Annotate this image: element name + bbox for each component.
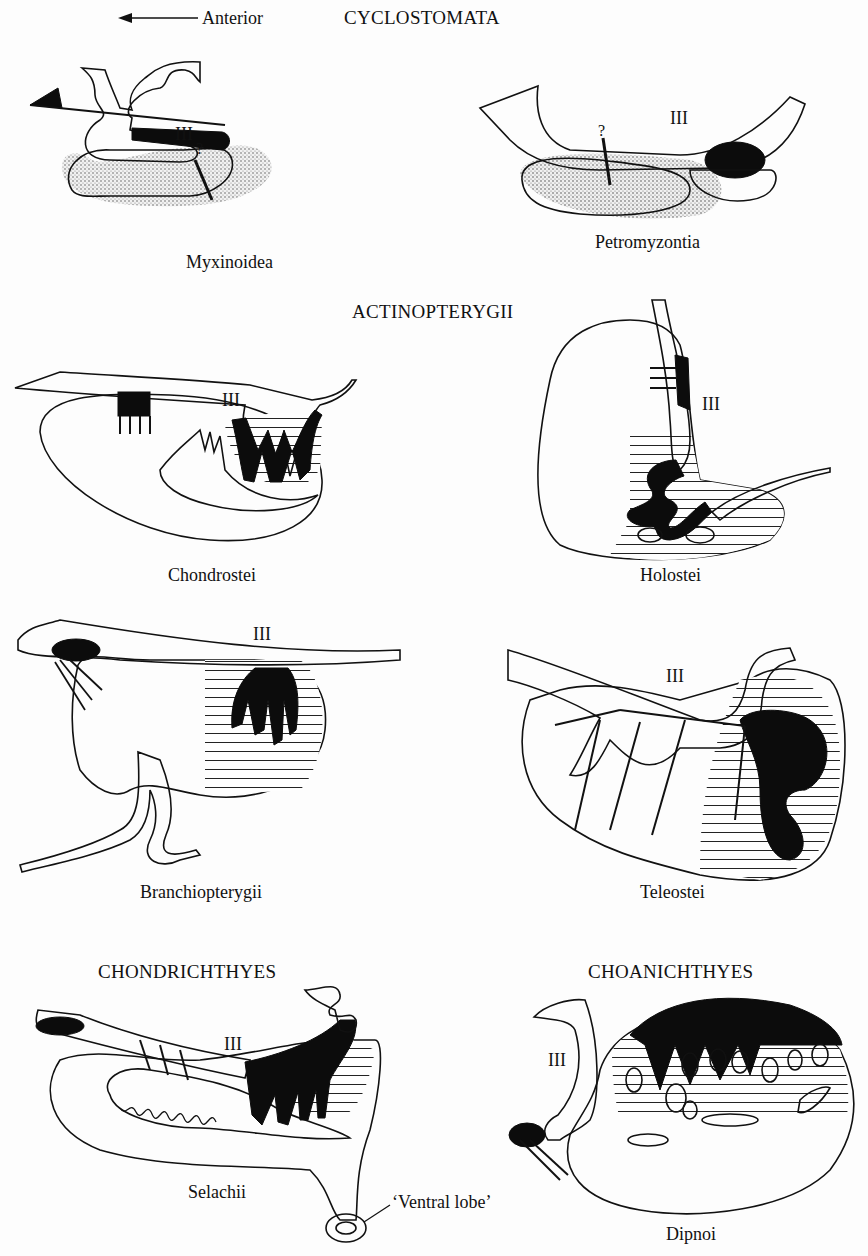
taxon-label-dipnoi: Dipnoi [666,1224,716,1244]
ventricle-label-petromyzontia: III [670,108,688,128]
ventricle-label-selachii: III [224,1034,242,1054]
anterior-label: Anterior [202,8,263,28]
ventricle-label-dipnoi: III [548,1050,566,1070]
ventricle-label-holostei: III [702,394,720,414]
ventricle-label-chondrostei: III [222,390,240,410]
taxon-label-branchiopterygii: Branchiopterygii [140,882,262,902]
taxon-label-selachii: Selachii [188,1182,246,1202]
diagram-petromyzontia [480,86,805,219]
ventricle-label-teleostei: III [666,666,684,686]
ventricle-label-myxinoidea: III [175,124,193,144]
ventricle-label-branchiopterygii: III [253,624,271,644]
group-heading-cyclostomata: CYCLOSTOMATA [344,7,500,28]
diagram-holostei [538,300,830,560]
group-heading-choanichthyes: CHOANICHTHYES [588,961,753,982]
taxon-label-holostei: Holostei [640,565,701,585]
diagram-selachii [36,987,390,1242]
taxon-label-myxinoidea: Myxinoidea [186,252,273,272]
taxon-label-petromyzontia: Petromyzontia [595,232,700,252]
question-mark-petromyzontia: ? [598,122,605,139]
group-heading-chondrichthyes: CHONDRICHTHYES [98,961,276,982]
ventral-lobe-label: ‘Ventral lobe’ [392,1192,491,1212]
pituitary-comparative-diagram: Anterior CYCLOSTOMATA ACTINOPTERYGII CHO… [0,0,868,1256]
taxon-label-chondrostei: Chondrostei [168,565,256,585]
diagram-myxinoidea [30,62,272,206]
diagram-dipnoi [509,998,854,1213]
diagram-branchiopterygii [18,620,400,872]
question-mark-myxinoidea: ? [196,140,203,157]
taxon-label-teleostei: Teleostei [640,882,705,902]
group-heading-actinopterygii: ACTINOPTERYGII [352,301,513,322]
anterior-arrow [118,13,198,23]
diagram-chondrostei [15,372,356,541]
